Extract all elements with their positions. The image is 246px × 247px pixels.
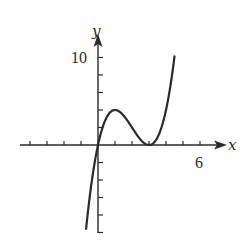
function-graph: y x 10 6 [0, 0, 246, 247]
y-tick-label-10: 10 [71, 49, 87, 66]
function-curve [86, 56, 174, 228]
x-axis-label: x [228, 136, 237, 154]
x-tick-label-6: 6 [195, 154, 203, 171]
y-axis-label: y [91, 22, 101, 40]
